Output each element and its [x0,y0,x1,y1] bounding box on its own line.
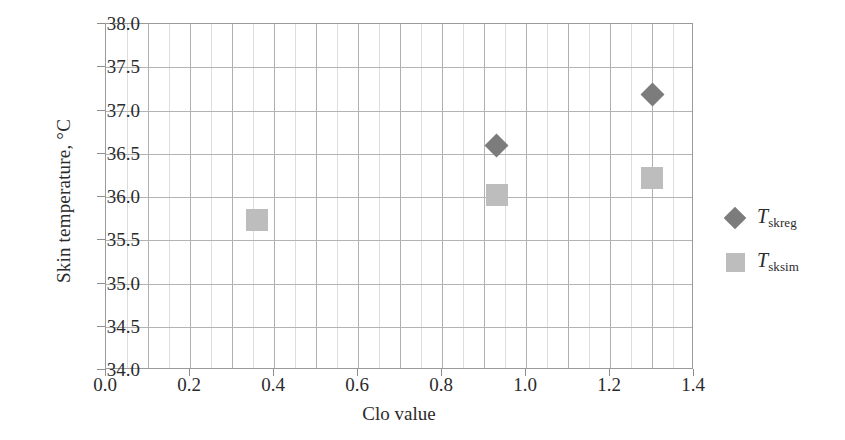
x-axis-tick-label: 0.6 [317,375,397,394]
x-axis-tick-mark [525,369,526,376]
y-axis-tick-mark [97,239,105,240]
square-marker-icon [722,249,748,275]
x-axis-tick-mark [693,369,694,376]
scatter-chart-figure: Skin temperature, °C 34.034.535.035.536.… [0,0,845,440]
y-axis-tick-mark [97,326,105,327]
x-axis-tick-label: 1.4 [653,375,733,394]
y-axis-tick-mark [97,153,105,154]
x-axis-tick-label: 1.2 [569,375,649,394]
diamond-marker-icon [722,205,748,231]
x-axis-tick-label: 0.4 [233,375,313,394]
x-axis-tick-mark [357,369,358,376]
x-axis-title: Clo value [105,403,693,425]
y-axis-tick-label: 35.5 [20,230,140,249]
y-axis-tick-mark [97,283,105,284]
y-axis-tick-label: 37.5 [20,57,140,76]
data-series-layer [106,24,692,368]
y-axis-tick-mark [97,196,105,197]
x-axis-tick-mark [441,369,442,376]
y-axis-tick-mark [97,23,105,24]
x-axis-tick-label: 0.0 [65,375,145,394]
x-axis-tick-mark [273,369,274,376]
plot-area [105,23,693,369]
data-point-t-skreg [485,133,509,157]
legend-item-t-skreg[interactable]: Tskreg [722,196,840,240]
x-axis-tick-mark [105,369,106,376]
chart-legend: TskregTsksim [722,196,840,284]
legend-item-label: Tskreg [757,205,797,231]
y-axis-tick-label: 36.0 [20,187,140,206]
y-axis-tick-label: 35.0 [20,273,140,292]
y-axis-tick-mark [97,110,105,111]
data-point-t-skreg [640,83,664,107]
x-axis-tick-mark [189,369,190,376]
legend-item-t-sksim[interactable]: Tsksim [722,240,840,284]
y-axis-tick-label: 37.0 [20,100,140,119]
x-axis-tick-mark [609,369,610,376]
data-point-t-sksim [486,184,508,206]
y-axis-tick-label: 36.5 [20,143,140,162]
y-axis-tick-label: 38.0 [20,14,140,33]
y-axis-tick-label: 34.5 [20,316,140,335]
data-point-t-sksim [641,167,663,189]
x-axis-tick-label: 0.8 [401,375,481,394]
x-axis-tick-label: 0.2 [149,375,229,394]
y-axis-tick-mark [97,369,105,370]
x-axis-tick-label: 1.0 [485,375,565,394]
data-point-t-sksim [246,209,268,231]
legend-item-label: Tsksim [757,249,799,275]
y-axis-tick-mark [97,66,105,67]
